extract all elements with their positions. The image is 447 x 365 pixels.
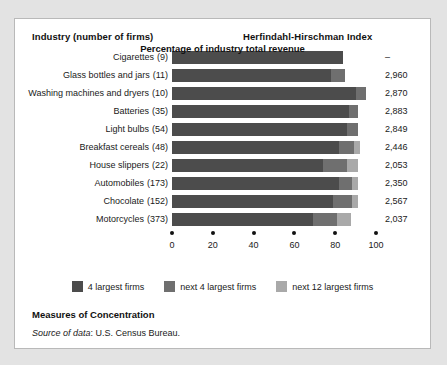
row-industry-name: Batteries	[113, 106, 149, 116]
chart-row: Chocolate(152)2,567	[15, 193, 430, 211]
chart-row: Automobiles(173)2,350	[15, 175, 430, 193]
axis-tick-mark	[252, 231, 256, 235]
axis-tick-label: 60	[289, 240, 299, 250]
row-hhi-value: 2,870	[385, 88, 408, 98]
row-firm-count: (48)	[152, 142, 168, 152]
chart-panel: Industry (number of firms) Herfindahl-Hi…	[14, 18, 431, 349]
bar-segment-s2	[339, 141, 353, 154]
bar-segment-s1	[172, 141, 339, 154]
axis-tick-mark	[292, 231, 296, 235]
axis-tick-mark	[211, 231, 215, 235]
axis-tick-label: 20	[208, 240, 218, 250]
legend-label: next 12 largest firms	[292, 282, 373, 292]
row-industry-name: Glass bottles and jars	[63, 70, 150, 80]
stacked-bar	[172, 177, 358, 190]
legend-label: 4 largest firms	[88, 282, 145, 292]
x-axis-title: Percentage of industry total revenue	[15, 43, 430, 54]
stacked-bar	[172, 105, 358, 118]
bar-segment-s2	[331, 69, 345, 82]
stacked-bar	[172, 213, 351, 226]
stacked-bar	[172, 69, 345, 82]
stacked-bar	[172, 195, 358, 208]
bar-segment-s2	[356, 87, 366, 100]
row-label: Automobiles(173)	[94, 178, 168, 188]
row-hhi-value: 2,960	[385, 70, 408, 80]
bar-segment-s2	[339, 177, 351, 190]
row-label: Motorcycles(373)	[96, 214, 168, 224]
row-hhi-value: 2,053	[385, 160, 408, 170]
bar-segment-s1	[172, 123, 347, 136]
row-industry-name: Washing machines and dryers	[28, 88, 149, 98]
row-hhi-value: 2,037	[385, 214, 408, 224]
row-label: Breakfast cereals(48)	[79, 142, 168, 152]
row-industry-name: Motorcycles	[96, 214, 144, 224]
bar-segment-s3	[352, 177, 358, 190]
row-firm-count: (35)	[152, 106, 168, 116]
row-hhi-value: 2,350	[385, 178, 408, 188]
row-label: Batteries(35)	[113, 106, 168, 116]
x-axis: 020406080100	[172, 231, 382, 265]
stacked-bar	[172, 87, 366, 100]
chart-row: House slippers(22)2,053	[15, 157, 430, 175]
row-label: Chocolate(152)	[103, 196, 168, 206]
row-firm-count: (173)	[147, 178, 168, 188]
bar-segment-s2	[349, 105, 357, 118]
row-industry-name: Breakfast cereals	[79, 142, 149, 152]
bar-segment-s1	[172, 213, 313, 226]
bar-segment-s1	[172, 69, 331, 82]
chart-row: Washing machines and dryers(10)2,870	[15, 85, 430, 103]
row-firm-count: (11)	[153, 70, 168, 80]
row-hhi-value: 2,446	[385, 142, 408, 152]
row-firm-count: (22)	[152, 160, 168, 170]
bar-segment-s3	[347, 159, 357, 172]
chart-rows: Cigarettes(9)–Glass bottles and jars(11)…	[15, 49, 430, 229]
row-label: Light bulbs(54)	[105, 124, 168, 134]
axis-tick-mark	[374, 231, 378, 235]
row-label: Washing machines and dryers(10)	[28, 88, 168, 98]
bar-segment-s2	[333, 195, 351, 208]
axis-tick-mark	[333, 231, 337, 235]
stacked-bar	[172, 159, 358, 172]
chart-row: Breakfast cereals(48)2,446	[15, 139, 430, 157]
column-header-hhi: Herfindahl-Hirschman Index	[243, 31, 372, 42]
stacked-bar	[172, 123, 358, 136]
axis-tick-label: 40	[249, 240, 259, 250]
bar-segment-s1	[172, 159, 323, 172]
row-hhi-value: 2,849	[385, 124, 408, 134]
axis-tick-label: 80	[330, 240, 340, 250]
legend-swatch	[164, 281, 175, 292]
legend-item: next 12 largest firms	[276, 281, 373, 292]
row-firm-count: (54)	[152, 124, 168, 134]
bar-segment-s1	[172, 105, 349, 118]
source-text: : U.S. Census Bureau.	[91, 328, 181, 338]
row-industry-name: Automobiles	[94, 178, 144, 188]
chart-row: Glass bottles and jars(11)2,960	[15, 67, 430, 85]
chart-row: Light bulbs(54)2,849	[15, 121, 430, 139]
chart-legend: 4 largest firmsnext 4 largest firmsnext …	[15, 281, 430, 292]
legend-item: 4 largest firms	[72, 281, 145, 292]
chart-row: Batteries(35)2,883	[15, 103, 430, 121]
axis-tick-label: 100	[368, 240, 383, 250]
axis-tick-label: 0	[169, 240, 174, 250]
figure-source: Source of data: U.S. Census Bureau.	[32, 328, 180, 338]
legend-swatch	[72, 281, 83, 292]
row-firm-count: (10)	[152, 88, 168, 98]
stacked-bar	[172, 141, 360, 154]
legend-swatch	[276, 281, 287, 292]
row-hhi-value: 2,883	[385, 106, 408, 116]
figure-title: Measures of Concentration	[32, 309, 154, 320]
bar-segment-s3	[354, 141, 360, 154]
row-label: House slippers(22)	[89, 160, 168, 170]
source-prefix: Source of data	[32, 328, 91, 338]
bar-segment-s1	[172, 177, 339, 190]
row-label: Glass bottles and jars(11)	[63, 70, 168, 80]
row-industry-name: Chocolate	[103, 196, 144, 206]
bar-segment-s1	[172, 195, 333, 208]
row-industry-name: House slippers	[89, 160, 149, 170]
bar-segment-s3	[352, 195, 358, 208]
bar-segment-s2	[347, 123, 357, 136]
row-firm-count: (152)	[147, 196, 168, 206]
row-industry-name: Light bulbs	[105, 124, 149, 134]
column-header-industry: Industry (number of firms)	[32, 31, 153, 42]
row-hhi-value: 2,567	[385, 196, 408, 206]
